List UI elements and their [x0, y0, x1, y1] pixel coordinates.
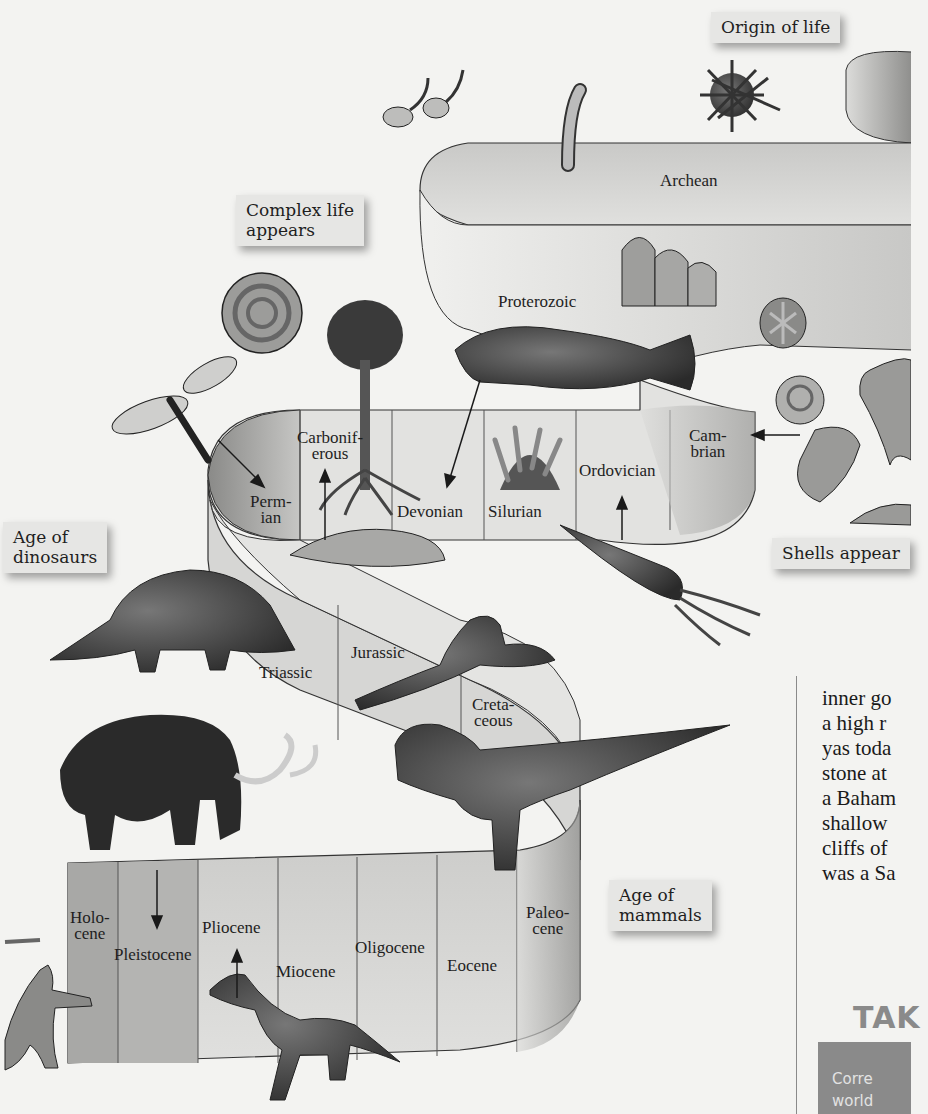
takeaway-line: Corre	[818, 1042, 911, 1090]
ammonite-icon	[222, 273, 302, 353]
label-eocene: Eocene	[447, 958, 497, 974]
callout-origin-of-life: Origin of life	[711, 12, 840, 43]
article-line: stone at	[822, 761, 928, 786]
section-heading: TAK	[853, 1000, 921, 1035]
callout-age-of-mammals: Age of mammals	[609, 880, 712, 931]
woolly-mammoth-icon	[60, 715, 316, 850]
article-line: yas toda	[822, 736, 928, 761]
article-line: shallow	[822, 811, 928, 836]
label-proterozoic: Proterozoic	[498, 294, 576, 310]
callout-complex-life: Complex life appears	[236, 195, 364, 246]
label-oligocene: Oligocene	[355, 940, 425, 956]
column-divider	[796, 676, 797, 1114]
label-triassic: Triassic	[259, 665, 312, 681]
callout-shells-appear: Shells appear	[772, 538, 910, 569]
article-line: a high r	[822, 711, 928, 736]
label-archean: Archean	[660, 173, 718, 189]
label-miocene: Miocene	[276, 964, 335, 980]
snail-shell-icon	[776, 376, 824, 424]
takeaway-box: Corre world	[818, 1042, 911, 1114]
article-line: a Baham	[822, 786, 928, 811]
label-ordovician: Ordovician	[579, 463, 655, 479]
article-line: cliffs of	[822, 836, 928, 861]
scallop-shell-icon	[850, 504, 911, 525]
label-pliocene: Pliocene	[202, 920, 261, 936]
trilobite-icon	[798, 359, 912, 502]
flagellate-cells-icon	[383, 70, 463, 127]
label-devonian: Devonian	[397, 504, 463, 520]
article-line: was a Sa	[822, 861, 928, 886]
callout-age-of-dinosaurs: Age of dinosaurs	[3, 522, 107, 573]
article-body: inner go a high r yas toda stone at a Ba…	[822, 686, 928, 886]
label-cretaceous: Creta- ceous	[472, 697, 514, 729]
takeaway-line: world	[818, 1090, 911, 1112]
label-holocene: Holo- cene	[70, 910, 110, 942]
article-line: inner go	[822, 686, 928, 711]
label-carboniferous: Carbonif- erous	[297, 430, 363, 462]
fossil-disc-icon	[760, 298, 806, 348]
label-pleistocene: Pleistocene	[114, 947, 191, 963]
label-cambrian: Cam- brian	[689, 428, 727, 460]
label-jurassic: Jurassic	[351, 645, 405, 661]
label-paleocene: Paleo- cene	[526, 905, 569, 937]
sea-urchin-icon	[700, 60, 780, 132]
label-silurian: Silurian	[488, 504, 542, 520]
label-permian: Perm- ian	[250, 494, 292, 526]
